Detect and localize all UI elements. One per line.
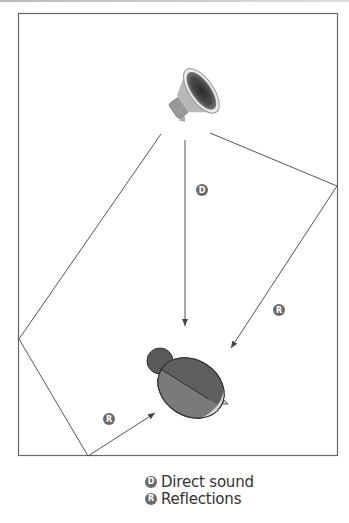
svg-text:R: R <box>106 415 112 424</box>
direct-badge-icon: D <box>145 476 157 488</box>
reflection-badge-right: R <box>273 304 285 316</box>
legend-item-direct: D Direct sound <box>145 473 254 490</box>
speaker-icon <box>158 63 226 133</box>
legend-label: Direct sound <box>161 473 254 491</box>
reflection-left-line <box>19 134 161 456</box>
legend-label: Reflections <box>161 490 241 508</box>
room-diagram: D R R <box>0 0 349 470</box>
legend-item-reflections: R Reflections <box>145 490 254 507</box>
legend: D Direct sound R Reflections <box>145 473 254 507</box>
direct-badge: D <box>196 184 208 196</box>
svg-text:R: R <box>276 306 282 315</box>
reflection-right-line <box>210 133 337 348</box>
reflection-badge-icon: R <box>145 493 157 505</box>
listener-head <box>139 338 250 441</box>
svg-text:D: D <box>199 186 206 195</box>
reflection-badge-left: R <box>103 413 115 425</box>
